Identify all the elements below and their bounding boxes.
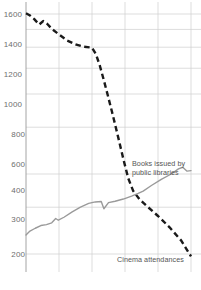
y-axis-tick-400: 400 xyxy=(3,186,25,195)
series-label-cinema-line1: Cinema attendances xyxy=(117,255,201,264)
series-line-books xyxy=(26,167,191,235)
y-axis-tick-1000: 1000 xyxy=(0,100,22,109)
y-axis-tick-800: 800 xyxy=(3,130,25,139)
series-label-books: Books issued by public libraries xyxy=(132,159,196,177)
series-label-books-line2: public libraries xyxy=(132,168,196,177)
chart-plot-area xyxy=(0,0,201,290)
y-axis-tick-1200: 1200 xyxy=(0,70,22,79)
y-axis-tick-1600: 1600 xyxy=(0,10,22,19)
y-axis-tick-600: 600 xyxy=(3,160,25,169)
chart-container: 1600 1400 1200 1000 800 600 400 300 200 … xyxy=(0,0,201,290)
series-line-cinema xyxy=(26,13,191,256)
y-axis-tick-200: 200 xyxy=(3,250,25,259)
series-label-cinema: Cinema attendances xyxy=(117,255,201,264)
y-axis-tick-300: 300 xyxy=(3,215,25,224)
series-label-books-line1: Books issued by xyxy=(132,159,196,168)
y-axis-tick-1400: 1400 xyxy=(0,40,22,49)
